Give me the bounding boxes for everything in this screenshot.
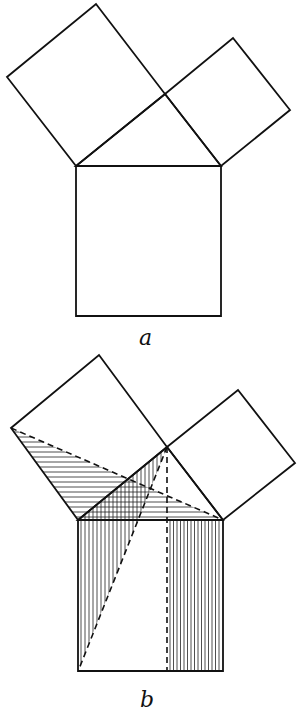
square-right-leg [165,38,290,166]
figure-b [0,355,295,675]
right-triangle [78,447,223,520]
square-hypotenuse [76,166,221,316]
square-right-leg [167,390,295,520]
hatch-horizontal [0,432,240,517]
right-triangle [76,94,221,166]
square-left-leg [7,4,165,166]
figure-b-label: b [140,687,154,712]
hatch-vertical-rectangle [170,515,219,675]
figure-a-label: a [139,325,152,350]
hatch-vertical-triangle [81,440,165,675]
pythagorean-diagram: a [0,0,301,715]
dashed-line-C-to-bottom-left [79,447,167,669]
figure-a [7,4,290,316]
